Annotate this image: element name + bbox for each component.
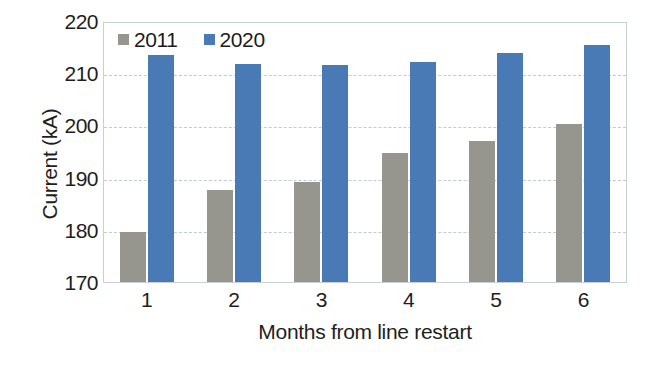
x-axis-title: Months from line restart (103, 320, 627, 344)
bar-2011-3[interactable] (294, 182, 320, 282)
y-tick-label: 220 (38, 10, 98, 34)
bar-2020-2[interactable] (235, 64, 261, 282)
y-tick-label: 190 (38, 167, 98, 191)
bar-chart-figure: Current (kA) 170180190200210220 20112020… (0, 0, 663, 367)
chart-legend: 20112020 (118, 29, 265, 50)
bar-2020-1[interactable] (148, 55, 174, 282)
bar-group (556, 23, 612, 282)
x-tick-label: 2 (228, 288, 239, 312)
y-axis-tick-labels: 170180190200210220 (38, 22, 98, 283)
y-tick-label: 200 (38, 114, 98, 138)
x-tick-label: 1 (141, 288, 152, 312)
bar-2020-5[interactable] (497, 53, 523, 282)
bar-2020-6[interactable] (584, 45, 610, 283)
y-tick-label: 210 (38, 62, 98, 86)
bar-2011-4[interactable] (382, 153, 408, 282)
plot-area: 20112020 (103, 22, 627, 283)
x-axis-tick-labels: 123456 (103, 288, 627, 316)
bar-group (120, 23, 176, 282)
bar-group (294, 23, 350, 282)
legend-entry-2011[interactable]: 2011 (118, 29, 178, 50)
legend-entry-2020[interactable]: 2020 (204, 29, 265, 50)
legend-label: 2020 (220, 29, 265, 50)
legend-label: 2011 (134, 29, 178, 50)
legend-swatch-icon (118, 34, 129, 45)
bar-2020-4[interactable] (410, 62, 436, 282)
bar-2011-1[interactable] (120, 232, 146, 282)
y-tick-label: 180 (38, 219, 98, 243)
x-tick-label: 3 (316, 288, 327, 312)
x-tick-label: 6 (578, 288, 589, 312)
bar-group (469, 23, 525, 282)
bar-2011-6[interactable] (556, 124, 582, 282)
bar-group (207, 23, 263, 282)
bar-group (382, 23, 438, 282)
legend-swatch-icon (204, 34, 215, 45)
bar-2011-5[interactable] (469, 141, 495, 282)
y-tick-label: 170 (38, 271, 98, 295)
bar-2020-3[interactable] (322, 65, 348, 282)
bars-layer (104, 23, 626, 282)
bar-2011-2[interactable] (207, 190, 233, 282)
x-tick-label: 4 (403, 288, 414, 312)
x-tick-label: 5 (490, 288, 501, 312)
